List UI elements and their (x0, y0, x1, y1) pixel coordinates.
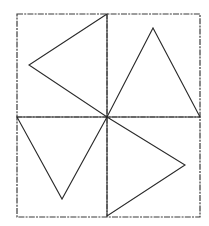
background (0, 0, 209, 226)
pinwheel-diagram (0, 0, 209, 226)
center-point (106, 116, 109, 119)
